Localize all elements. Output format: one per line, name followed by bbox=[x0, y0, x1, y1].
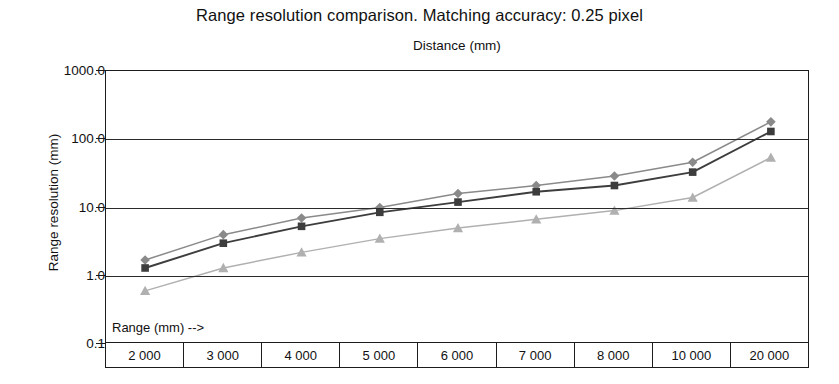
category-cell: 2 000 bbox=[106, 343, 184, 367]
category-axis-table: 2 0003 0004 0005 0006 0007 0008 00010 00… bbox=[105, 343, 809, 368]
series-diamond-marker bbox=[688, 157, 698, 167]
category-cell: 6 000 bbox=[418, 343, 496, 367]
gridline-100.0 bbox=[106, 139, 808, 140]
plot-area bbox=[105, 70, 809, 343]
y-tick-mark bbox=[96, 275, 105, 276]
category-cell: 4 000 bbox=[262, 343, 340, 367]
series-diamond-marker bbox=[610, 171, 620, 181]
series-diamond-marker bbox=[219, 230, 229, 240]
chart-figure: Range resolution comparison. Matching ac… bbox=[0, 0, 839, 384]
series-diamond-marker bbox=[140, 255, 150, 265]
category-cell: 3 000 bbox=[184, 343, 262, 367]
series-diamond-marker bbox=[297, 213, 307, 223]
series-square-marker bbox=[689, 168, 697, 176]
category-cell: 8 000 bbox=[575, 343, 653, 367]
gridline-10.0 bbox=[106, 208, 808, 209]
series-square-marker bbox=[454, 198, 462, 206]
category-cell: 10 000 bbox=[653, 343, 731, 367]
y-axis-tick-group: 1000.0100.010.01.00.1 bbox=[0, 0, 105, 384]
category-cell: 7 000 bbox=[497, 343, 575, 367]
y-tick-mark bbox=[96, 138, 105, 139]
category-cell: 5 000 bbox=[340, 343, 418, 367]
series-triangle-marker bbox=[766, 152, 776, 161]
series-square-marker bbox=[532, 188, 540, 196]
y-tick-mark bbox=[96, 207, 105, 208]
series-square-marker bbox=[220, 239, 228, 247]
series-triangle-marker bbox=[688, 192, 698, 201]
range-axis-caption: Range (mm) --> bbox=[112, 320, 204, 335]
series-diamond-marker bbox=[453, 189, 463, 199]
series-square-marker bbox=[298, 223, 306, 231]
gridline-1.0 bbox=[106, 276, 808, 277]
top-axis-label: Distance (mm) bbox=[105, 38, 809, 53]
series-square-marker bbox=[611, 182, 619, 190]
y-tick-mark bbox=[96, 343, 105, 344]
chart-title: Range resolution comparison. Matching ac… bbox=[0, 6, 839, 25]
y-tick-mark bbox=[96, 70, 105, 71]
series-square-marker bbox=[376, 209, 384, 217]
category-cell: 20 000 bbox=[731, 343, 808, 367]
series-square-marker bbox=[767, 128, 775, 136]
series-square-marker bbox=[141, 264, 149, 272]
series-diamond-marker bbox=[766, 117, 776, 127]
